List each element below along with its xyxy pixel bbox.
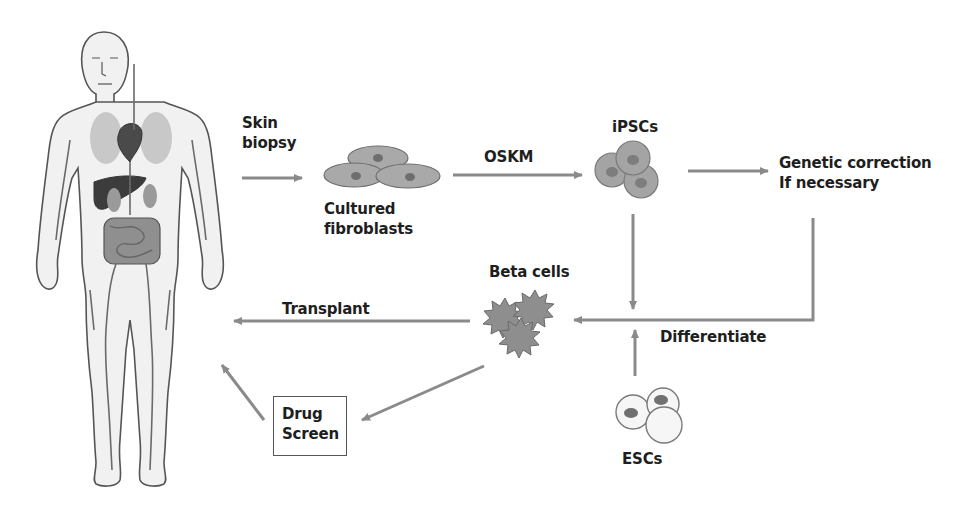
fibroblasts-line2: fibroblasts: [324, 219, 413, 239]
ipscs-label: iPSCs: [612, 117, 658, 137]
beta-cells-label: Beta cells: [489, 262, 569, 282]
drug-screen-label: Drug Screen: [282, 404, 339, 444]
human-body-illustration: [37, 32, 224, 486]
drug-screen-line2: Screen: [282, 424, 339, 444]
genetic-correction-line1: Genetic correction: [779, 153, 932, 173]
escs-label: ESCs: [622, 449, 662, 469]
arrow-genetic-correction-to-beta-cells: [574, 218, 813, 320]
escs-cells: [616, 388, 682, 443]
cultured-fibroblasts-label: Cultured fibroblasts: [324, 199, 413, 239]
arrows: [222, 171, 813, 420]
beta-cells-illustration: [483, 290, 554, 358]
oskm-label: OSKM: [484, 147, 533, 167]
skin-biopsy-line1: Skin: [242, 113, 296, 133]
diagram-canvas: [0, 0, 967, 520]
differentiate-label: Differentiate: [660, 327, 766, 347]
cultured-fibroblasts-cells: [324, 146, 440, 188]
arrow-beta-cells-to-drug-screen: [362, 366, 484, 420]
drug-screen-box: Drug Screen: [273, 396, 347, 456]
genetic-correction-label: Genetic correction If necessary: [779, 153, 932, 193]
arrow-drug-screen-to-body: [222, 365, 264, 420]
skin-biopsy-label: Skin biopsy: [242, 113, 296, 153]
fibroblasts-line1: Cultured: [324, 199, 413, 219]
genetic-correction-line2: If necessary: [779, 173, 932, 193]
transplant-label: Transplant: [282, 299, 370, 319]
drug-screen-line1: Drug: [282, 404, 339, 424]
ipscs-cells: [595, 141, 658, 198]
skin-biopsy-line2: biopsy: [242, 133, 296, 153]
